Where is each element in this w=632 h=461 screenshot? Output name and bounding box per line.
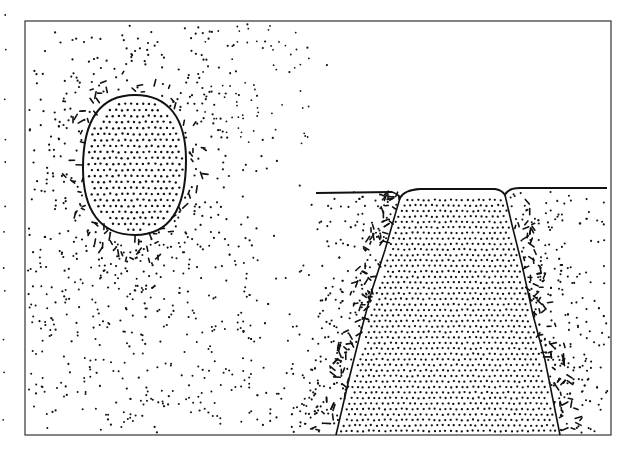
- column-left-edge: [336, 198, 400, 435]
- figure-frame: [25, 21, 611, 435]
- stipple-dots: [2, 14, 610, 434]
- oval-outline: [83, 95, 186, 235]
- surface-line: [316, 188, 607, 198]
- stipple-illustration: [0, 0, 632, 461]
